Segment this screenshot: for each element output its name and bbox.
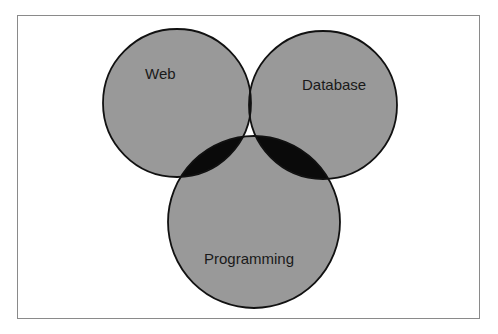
label-programming: Programming [204,250,294,267]
venn-diagram: Web Database Programming [0,0,498,334]
label-database: Database [302,76,366,93]
label-web: Web [145,65,176,82]
